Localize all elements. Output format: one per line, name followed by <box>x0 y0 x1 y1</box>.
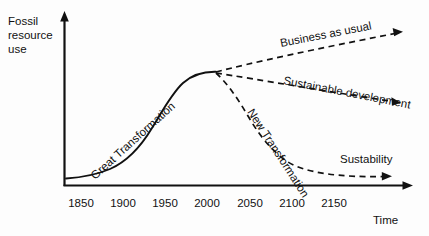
label-great-transformation: Great Transformation <box>88 100 177 182</box>
label-business-as-usual: Business as usual <box>279 19 372 48</box>
x-tick-2000: 2000 <box>194 197 220 209</box>
x-axis-label: Time <box>373 214 398 226</box>
x-tick-1850: 1850 <box>68 197 94 209</box>
plot-area: Great Transformation New Transformation … <box>0 0 429 236</box>
figure-container: Fossil resource use Great Transformation… <box>0 0 429 236</box>
x-tick-1950: 1950 <box>152 197 178 209</box>
x-tick-1900: 1900 <box>110 197 136 209</box>
x-axis-arrowhead <box>403 181 414 190</box>
label-sustainable-development: Sustainable development <box>283 74 413 111</box>
y-axis-arrowhead <box>60 11 69 22</box>
label-sustability: Sustability <box>340 153 393 165</box>
x-tick-2150: 2150 <box>321 197 347 209</box>
x-tick-2050: 2050 <box>237 197 263 209</box>
x-tick-2100: 2100 <box>279 197 305 209</box>
business-as-usual-arrowhead <box>393 28 403 36</box>
sustability-arrowhead <box>382 172 392 180</box>
